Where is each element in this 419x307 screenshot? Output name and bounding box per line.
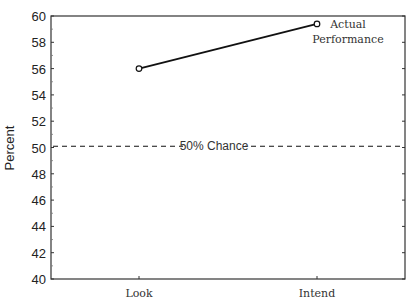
y-tick-label: 58 (32, 35, 46, 50)
y-tick-label: 54 (32, 88, 46, 103)
series-line (139, 24, 317, 69)
y-tick-label: 46 (32, 193, 46, 208)
y-tick-label: 50 (32, 141, 46, 156)
y-tick-label: 52 (32, 114, 46, 129)
x-category-label-intend: Intend (299, 287, 336, 300)
y-tick-label: 42 (32, 246, 46, 261)
chance-line-label: 50% Chance (180, 139, 249, 153)
y-tick-label: 60 (32, 9, 46, 24)
series-label-actual: Actual (329, 18, 366, 31)
y-tick-label: 48 (32, 167, 46, 182)
data-point-marker (136, 66, 142, 72)
x-category-label-look: Look (125, 287, 153, 300)
y-axis-label: Percent (2, 125, 17, 170)
y-tick-label: 56 (32, 62, 46, 77)
y-tick-label: 40 (32, 272, 46, 287)
y-tick-label: 44 (32, 219, 46, 234)
line-chart: 4042444648505254565860 Percent 50% Chanc… (0, 0, 419, 307)
series-label-performance: Performance (312, 33, 383, 46)
data-point-marker (314, 21, 320, 27)
data-series (136, 21, 320, 71)
